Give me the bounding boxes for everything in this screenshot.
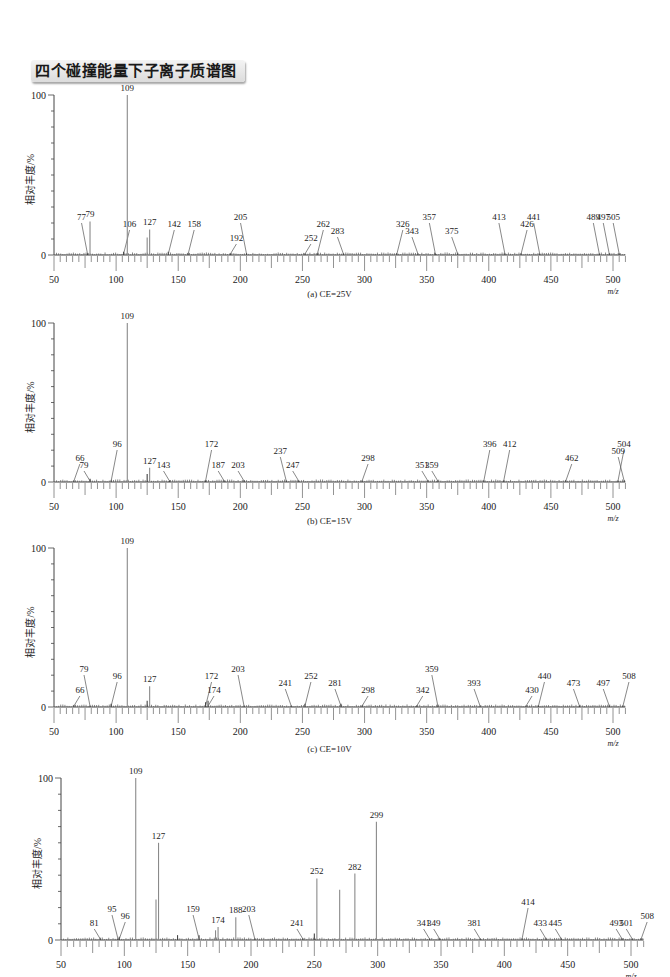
y-axis-label: 相对丰度/% (31, 838, 43, 889)
x-tick-label: 50 (56, 959, 66, 970)
x-tick-label: 500 (624, 959, 639, 970)
peak-label: 349 (427, 918, 441, 928)
x-tick-label: 450 (560, 959, 575, 970)
peak-label: 188 (229, 905, 243, 915)
peak-label: 241 (290, 918, 304, 928)
peak-label: 81 (90, 918, 99, 928)
peak-label: 159 (186, 904, 200, 914)
x-tick-label: 200 (244, 959, 259, 970)
y-tick-label: 100 (38, 773, 53, 784)
x-tick-label: 350 (434, 959, 449, 970)
peak-label: 95 (108, 904, 118, 914)
peak-label: 203 (242, 904, 256, 914)
peak-label: 414 (521, 897, 535, 907)
x-tick-label: 250 (307, 959, 322, 970)
peak-label: 445 (549, 918, 563, 928)
x-tick-label: 100 (117, 959, 132, 970)
x-tick-label: 400 (497, 959, 512, 970)
peak-label: 174 (211, 915, 225, 925)
x-axis-label: m/z (625, 972, 637, 977)
peak-label: 508 (640, 911, 654, 921)
peak-label: 127 (152, 831, 166, 841)
peak-label: 501 (620, 918, 634, 928)
spectrum-panel-d: 1000相对丰度/%50100150200250300350400450500m… (0, 0, 670, 977)
x-tick-label: 150 (180, 959, 195, 970)
peak-label: 381 (468, 918, 482, 928)
peak-label: 252 (310, 866, 324, 876)
peak-label: 433 (533, 918, 547, 928)
peak-label: 282 (348, 862, 362, 872)
peak-label: 109 (129, 766, 143, 776)
peak-label: 299 (370, 810, 384, 820)
x-tick-label: 300 (370, 959, 385, 970)
peak-label: 96 (121, 911, 131, 921)
y-tick-label: 0 (48, 935, 53, 946)
